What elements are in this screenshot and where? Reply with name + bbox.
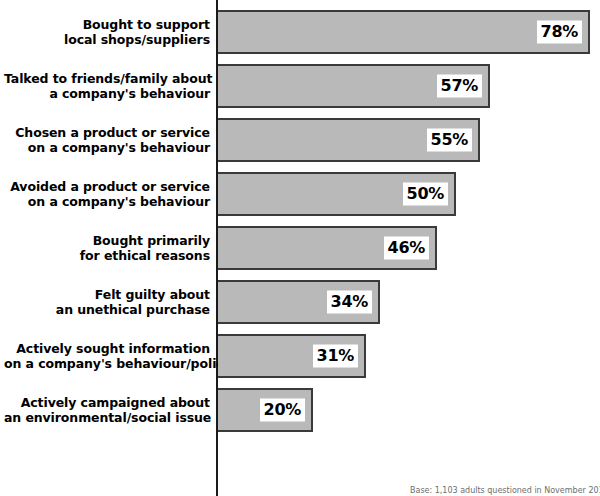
bar: 55% [218, 118, 480, 162]
bar-row: Avoided a product or serviceon a company… [0, 172, 600, 216]
bar-row: Bought to supportlocal shops/suppliers78… [0, 10, 600, 54]
bar: 78% [218, 10, 590, 54]
bar-row: Felt guilty aboutan unethical purchase34… [0, 280, 600, 324]
bar: 20% [218, 388, 313, 432]
bar-category-label-line2: an unethical purchase [4, 302, 210, 317]
bar-category-label: Felt guilty aboutan unethical purchase [4, 287, 216, 317]
bar-category-label-line1: Actively sought information [16, 341, 210, 356]
bar-category-label-line1: Bought primarily [93, 233, 210, 248]
bar-value-label: 20% [260, 399, 305, 422]
bar-category-label: Actively sought informationon a company'… [4, 341, 216, 371]
bar-category-label-line1: Talked to friends/family about [4, 71, 212, 86]
bar-category-label: Bought primarilyfor ethical reasons [4, 233, 216, 263]
bar-category-label-line2: a company's behaviour [4, 86, 210, 101]
bar-row: Bought primarilyfor ethical reasons46% [0, 226, 600, 270]
bar-value-label: 78% [537, 21, 582, 44]
bar-row: Actively sought informationon a company'… [0, 334, 600, 378]
bar-category-label: Chosen a product or serviceon a company'… [4, 125, 216, 155]
bar-category-label-line2: an environmental/social issue [4, 410, 210, 425]
bar-category-label: Bought to supportlocal shops/suppliers [4, 17, 216, 47]
bar-category-label-line2: on a company's behaviour [4, 194, 210, 209]
bar-category-label: Avoided a product or serviceon a company… [4, 179, 216, 209]
bar-category-label-line2: on a company's behaviour/policies [4, 356, 210, 371]
bar-category-label-line1: Felt guilty about [95, 287, 210, 302]
bar-value-label: 50% [403, 183, 448, 206]
bar-category-label-line2: local shops/suppliers [4, 32, 210, 47]
bar-value-label: 55% [427, 129, 472, 152]
bar-category-label: Talked to friends/family abouta company'… [4, 71, 216, 101]
bar-category-label-line1: Avoided a product or service [10, 179, 210, 194]
bar-value-label: 57% [437, 75, 482, 98]
bar-value-label: 34% [327, 291, 372, 314]
chart-footnote: Base: 1,103 adults questioned in Novembe… [410, 486, 600, 496]
bar-row: Actively campaigned aboutan environmenta… [0, 388, 600, 432]
bar-rows-container: Bought to supportlocal shops/suppliers78… [0, 0, 600, 496]
bar: 57% [218, 64, 490, 108]
bar: 50% [218, 172, 456, 216]
bar-category-label-line1: Actively campaigned about [21, 395, 210, 410]
bar-chart: Bought to supportlocal shops/suppliers78… [0, 0, 600, 496]
bar-category-label-line2: for ethical reasons [4, 248, 210, 263]
bar: 34% [218, 280, 380, 324]
bar: 46% [218, 226, 437, 270]
bar-category-label: Actively campaigned aboutan environmenta… [4, 395, 216, 425]
bar-category-label-line2: on a company's behaviour [4, 140, 210, 155]
bar-value-label: 46% [384, 237, 429, 260]
bar-row: Chosen a product or serviceon a company'… [0, 118, 600, 162]
bar-category-label-line1: Bought to support [83, 17, 210, 32]
bar-row: Talked to friends/family abouta company'… [0, 64, 600, 108]
bar-value-label: 31% [313, 345, 358, 368]
bar-category-label-line1: Chosen a product or service [15, 125, 210, 140]
bar: 31% [218, 334, 366, 378]
